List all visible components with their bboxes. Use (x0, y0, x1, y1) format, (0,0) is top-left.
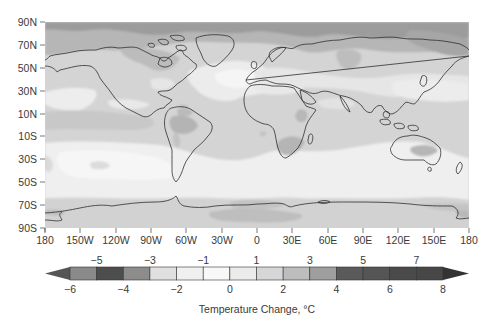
colorbar-lower-label: 6 (387, 283, 393, 295)
colorbar-lower-label: 2 (280, 283, 286, 295)
map-plot-area (45, 22, 469, 228)
x-tick-label: 120W (102, 234, 130, 246)
colorbar-upper-labels: −5 −3 −1 1 3 5 7 (91, 254, 420, 266)
y-tick-label: 90S (18, 222, 37, 234)
colorbar-upper-label: 1 (254, 254, 260, 266)
x-tick-label: 150E (422, 234, 447, 246)
y-tick-label: 70S (18, 199, 37, 211)
x-tick-label: 180 (460, 234, 478, 246)
y-tick-label: 50S (18, 176, 37, 188)
colorbar-segment (150, 267, 177, 280)
colorbar (45, 267, 469, 280)
colorbar-lower-label: −4 (117, 283, 129, 295)
y-tick-label: 30S (18, 153, 37, 165)
colorbar-segment (363, 267, 390, 280)
y-tick-label: 10N (18, 108, 37, 120)
colorbar-segment (336, 267, 363, 280)
y-tick-labels: 90N 70N 50N 30N 10N 10S 30S 50S 70S 90S (18, 16, 37, 234)
x-tick-label: 60W (175, 234, 197, 246)
colorbar-lower-label: 8 (440, 283, 446, 295)
x-tick-label: 120E (386, 234, 411, 246)
colorbar-lower-label: −2 (171, 283, 183, 295)
colorbar-segment (283, 267, 310, 280)
colorbar-under-triangle (45, 267, 70, 280)
colorbar-upper-label: 7 (413, 254, 419, 266)
x-tick-label: 60E (319, 234, 338, 246)
colorbar-lower-label: 4 (334, 283, 340, 295)
colorbar-segment (230, 267, 257, 280)
y-tick-label: 50N (18, 62, 37, 74)
colorbar-segments (70, 267, 443, 280)
x-tick-label: 180 (36, 234, 54, 246)
colorbar-upper-label: −5 (91, 254, 103, 266)
colorbar-lower-label: −6 (64, 283, 76, 295)
colorbar-title: Temperature Change, °C (199, 303, 316, 315)
colorbar-segment (390, 267, 417, 280)
y-tick-label: 90N (18, 16, 37, 28)
colorbar-over-triangle (443, 267, 469, 280)
y-tick-label: 10S (18, 130, 37, 142)
colorbar-upper-label: 5 (360, 254, 366, 266)
x-tick-label: 150W (66, 234, 94, 246)
x-tick-label: 90E (354, 234, 373, 246)
west-africa-patch (260, 131, 266, 136)
colorbar-lower-labels: −6 −4 −2 0 2 4 6 8 (64, 283, 446, 295)
x-tick-labels: 180 150W 120W 90W 60W 30W 0 30E 60E 90E … (36, 234, 478, 246)
colorbar-segment (97, 267, 124, 280)
colorbar-segment (70, 267, 97, 280)
x-tick-label: 30W (211, 234, 233, 246)
colorbar-segment (257, 267, 284, 280)
x-tick-label: 30E (283, 234, 302, 246)
colorbar-segment (416, 267, 443, 280)
colorbar-segment (123, 267, 150, 280)
colorbar-lower-label: 0 (227, 283, 233, 295)
colorbar-upper-label: −1 (197, 254, 209, 266)
y-tick-label: 70N (18, 39, 37, 51)
colorbar-upper-label: −3 (144, 254, 156, 266)
x-tick-label: 90W (140, 234, 162, 246)
temperature-change-map-figure: 90N 70N 50N 30N 10N 10S 30S 50S 70S 90S … (0, 0, 493, 322)
x-tick-label: 0 (254, 234, 260, 246)
colorbar-segment (203, 267, 230, 280)
colorbar-upper-label: 3 (307, 254, 313, 266)
colorbar-segment (310, 267, 337, 280)
colorbar-segment (177, 267, 204, 280)
y-tick-label: 30N (18, 85, 37, 97)
